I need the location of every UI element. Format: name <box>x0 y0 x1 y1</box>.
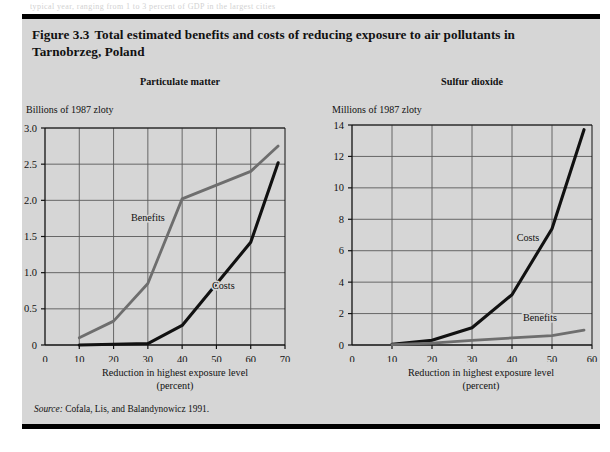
series-label-costs: Costs <box>517 232 540 243</box>
x-tick-label: 60 <box>587 354 598 362</box>
figure-title: Figure 3.3Total estimated benefits and c… <box>32 26 572 60</box>
x-axis-caption-right-line1: Reduction in highest exposure level <box>356 366 606 379</box>
chart-svg-right: 024681012140102030405060CostsCostsBenefi… <box>305 112 610 362</box>
x-tick-label: 30 <box>143 354 154 362</box>
x-axis-caption-right: Reduction in highest exposure level (per… <box>356 366 606 392</box>
y-tick-label: 2 <box>339 308 344 319</box>
y-tick-label: 10 <box>334 182 345 193</box>
series-label-benefits: Benefits <box>523 312 557 323</box>
x-tick-label: 60 <box>245 354 256 362</box>
x-tick-label: 0 <box>42 354 47 362</box>
x-axis-caption-right-line2: (percent) <box>356 379 606 392</box>
x-tick-label: 30 <box>467 354 478 362</box>
figure-number: Figure 3.3 <box>32 27 89 42</box>
source-note: Source: Cofala, Lis, and Balandynowicz 1… <box>34 404 209 414</box>
figure-title-text: Total estimated benefits and costs of re… <box>32 27 515 59</box>
y-tick-label: 0 <box>32 340 37 351</box>
panel-title-sulfur-dioxide: Sulfur dioxide <box>352 76 592 87</box>
x-tick-label: 40 <box>507 354 518 362</box>
x-tick-label: 50 <box>547 354 558 362</box>
figure-page: typical year, ranging from 1 to 3 percen… <box>0 0 610 452</box>
y-tick-label: 12 <box>334 151 345 162</box>
x-tick-label: 20 <box>108 354 119 362</box>
x-tick-label: 20 <box>427 354 438 362</box>
y-tick-label: 2.5 <box>24 159 37 170</box>
y-tick-label: 1.5 <box>24 231 37 242</box>
y-tick-label: 0 <box>339 340 344 351</box>
y-tick-label: 14 <box>334 120 345 131</box>
panel-title-particulate-matter: Particulate matter <box>60 76 300 87</box>
y-tick-label: 0.5 <box>24 303 37 314</box>
x-tick-label: 10 <box>74 354 85 362</box>
x-tick-label: 0 <box>349 354 354 362</box>
x-axis-caption-left-line1: Reduction in highest exposure level <box>50 366 300 379</box>
y-tick-label: 8 <box>339 214 344 225</box>
y-tick-label: 2.0 <box>24 195 37 206</box>
figure-top-rule <box>22 14 600 19</box>
y-tick-label: 4 <box>339 277 345 288</box>
x-axis-caption-left: Reduction in highest exposure level (per… <box>50 366 300 392</box>
page-bleed-text: typical year, ranging from 1 to 3 percen… <box>30 2 550 11</box>
x-tick-label: 50 <box>211 354 222 362</box>
source-text: Cofala, Lis, and Balandynowicz 1991. <box>65 404 209 414</box>
y-tick-label: 1.0 <box>24 267 37 278</box>
x-tick-label: 70 <box>280 354 291 362</box>
y-tick-label: 3.0 <box>24 123 37 134</box>
source-label: Source: <box>34 404 63 414</box>
figure-bottom-rule <box>22 424 600 429</box>
series-label-costs: Costs <box>212 280 235 291</box>
y-tick-label: 6 <box>339 245 344 256</box>
x-tick-label: 40 <box>177 354 188 362</box>
chart-sulfur-dioxide: 024681012140102030405060CostsCostsBenefi… <box>305 112 610 362</box>
chart-svg-left: 00.51.01.52.02.53.0010203040506070Benefi… <box>0 112 305 362</box>
chart-particulate-matter: 00.51.01.52.02.53.0010203040506070Benefi… <box>0 112 305 362</box>
x-tick-label: 10 <box>387 354 398 362</box>
series-label-benefits: Benefits <box>131 212 165 223</box>
x-axis-caption-left-line2: (percent) <box>50 379 300 392</box>
